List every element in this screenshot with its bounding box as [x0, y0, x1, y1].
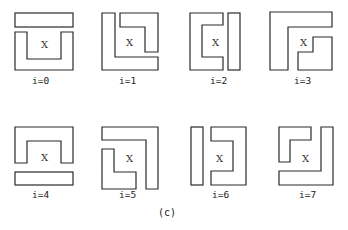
bar-piece	[15, 172, 73, 185]
panel-i3: X i=3	[270, 12, 332, 86]
panel-label: i=7	[299, 189, 316, 200]
panel-label: i=0	[32, 75, 49, 86]
panel-label: i=1	[119, 75, 136, 86]
panel-label: i=3	[294, 75, 311, 86]
center-mark: X	[41, 152, 49, 163]
center-mark: X	[302, 153, 310, 164]
center-mark: X	[300, 37, 308, 48]
bar-piece	[191, 127, 203, 185]
panel-i1: X i=1	[102, 13, 158, 86]
u-piece	[15, 32, 73, 70]
panel-i2: X i=2	[190, 13, 240, 86]
center-mark: X	[126, 37, 134, 48]
panel-label: i=2	[210, 75, 227, 86]
bar-piece	[228, 13, 240, 70]
bar-piece	[15, 13, 73, 27]
panel-i5: X i=5	[102, 127, 158, 200]
center-mark: X	[41, 39, 49, 50]
center-mark: X	[126, 153, 134, 164]
panel-label: i=6	[212, 189, 229, 200]
figure-caption: (c)	[158, 207, 176, 218]
panel-i6: X i=6	[191, 127, 246, 200]
panel-i0: X i=0	[15, 13, 73, 86]
panel-i4: X i=4	[15, 127, 73, 200]
panel-label: i=5	[119, 189, 136, 200]
center-mark: X	[212, 37, 220, 48]
panel-i7: X i=7	[279, 127, 333, 200]
panel-label: i=4	[32, 189, 49, 200]
center-mark: X	[216, 153, 224, 164]
orientation-diagram: X i=0 X i=1 X i=2 X i=3 X i=4 X i=5	[0, 0, 348, 230]
